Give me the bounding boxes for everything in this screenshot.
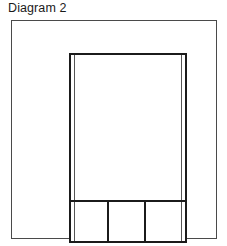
outer-frame — [11, 20, 217, 239]
bottom-cell-1 — [71, 202, 107, 241]
inner-rectangle — [69, 53, 187, 243]
bottom-cell-3 — [146, 202, 185, 241]
page-title: Diagram 2 — [8, 1, 67, 16]
diagram-canvas: Diagram 2 — [0, 0, 227, 246]
upper-area — [71, 55, 185, 200]
bottom-cell-2 — [109, 202, 144, 241]
bottom-band — [71, 202, 185, 241]
